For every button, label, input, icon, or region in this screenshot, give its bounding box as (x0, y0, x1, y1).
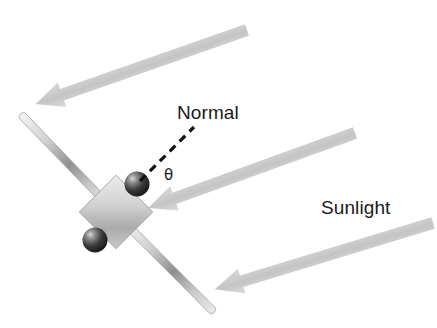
sphere-lower (83, 228, 108, 253)
diagram-canvas: Normal Sunlight θ (0, 0, 437, 328)
solar-panel-lower-right (121, 219, 217, 315)
sphere-upper (125, 172, 150, 197)
normal-label: Normal (177, 103, 239, 122)
sunlight-arrow-bottom (211, 211, 437, 302)
theta-angle-label: θ (164, 168, 173, 183)
satellite-sunlight-diagram (0, 0, 437, 328)
sunlight-arrows (31, 18, 436, 302)
sunlight-label: Sunlight (321, 198, 390, 217)
